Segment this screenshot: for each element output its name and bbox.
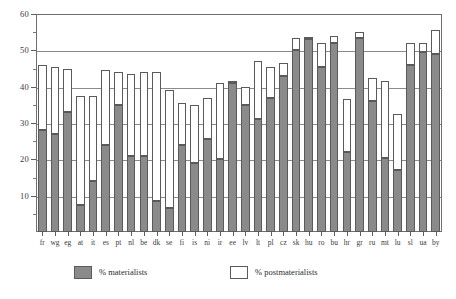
bar-segment-postmaterialists — [431, 30, 440, 54]
bar-segment-postmaterialists — [140, 72, 149, 156]
x-tick — [118, 232, 119, 236]
bar-segment-postmaterialists — [127, 74, 136, 156]
bar-column — [203, 14, 212, 232]
bar-segment-postmaterialists — [419, 43, 428, 52]
bar-column — [63, 14, 72, 232]
x-tick-label: ir — [218, 238, 223, 247]
x-tick-label: by — [432, 238, 440, 247]
x-tick — [68, 232, 69, 236]
bar-segment-materialists — [203, 139, 212, 232]
bar-segment-postmaterialists — [254, 61, 263, 119]
y-tick-label: 60 — [20, 10, 29, 19]
bar-segment-postmaterialists — [279, 63, 288, 76]
x-tick — [334, 232, 335, 236]
x-tick-label: pt — [116, 238, 122, 247]
bar-segment-materialists — [228, 83, 237, 232]
bar-segment-materialists — [101, 145, 110, 232]
bar-segment-postmaterialists — [203, 98, 212, 140]
bar-column — [216, 14, 225, 232]
bar-column — [292, 14, 301, 232]
x-tick — [182, 232, 183, 236]
legend-item-postmaterialists: % postmaterialists — [230, 266, 318, 279]
bar-segment-materialists — [127, 156, 136, 232]
x-tick-label: fi — [180, 238, 185, 247]
bar-segment-materialists — [190, 163, 199, 232]
bar-segment-postmaterialists — [292, 38, 301, 51]
y-tick-label: 10 — [20, 191, 29, 200]
bar-column — [330, 14, 339, 232]
bar-segment-postmaterialists — [38, 65, 47, 130]
x-tick-label: lv — [242, 238, 248, 247]
bar-column — [419, 14, 428, 232]
y-tick-label: 30 — [20, 119, 29, 128]
x-tick-label: ua — [419, 238, 426, 247]
x-tick-label: sl — [408, 238, 413, 247]
x-tick — [258, 232, 259, 236]
x-tick-label: lu — [395, 238, 401, 247]
bar-segment-postmaterialists — [63, 69, 72, 113]
x-tick — [436, 232, 437, 236]
legend-item-materialists: % materialists — [74, 266, 147, 279]
bar-column — [38, 14, 47, 232]
bar-segment-postmaterialists — [165, 90, 174, 208]
bar-column — [140, 14, 149, 232]
bar-segment-materialists — [406, 65, 415, 232]
bar-column — [406, 14, 415, 232]
x-tick-label: it — [91, 238, 95, 247]
bar-column — [317, 14, 326, 232]
bar-segment-materialists — [114, 105, 123, 232]
bar-segment-materialists — [381, 158, 390, 232]
bar-column — [355, 14, 364, 232]
x-tick — [169, 232, 170, 236]
bar-segment-postmaterialists — [317, 43, 326, 67]
bar-segment-materialists — [152, 201, 161, 232]
x-tick-label: hu — [305, 238, 313, 247]
x-tick — [296, 232, 297, 236]
y-tick-label: 20 — [20, 155, 29, 164]
x-tick — [131, 232, 132, 236]
bar-column — [114, 14, 123, 232]
bar-segment-materialists — [355, 38, 364, 232]
bar-segment-postmaterialists — [89, 96, 98, 181]
bar-segment-materialists — [266, 98, 275, 232]
x-tick — [245, 232, 246, 236]
x-tick-label: be — [140, 238, 147, 247]
x-tick-label: dk — [153, 238, 161, 247]
bar-segment-materialists — [216, 159, 225, 232]
legend-label-postmaterialists: % postmaterialists — [255, 268, 318, 277]
bar-segment-materialists — [178, 145, 187, 232]
bar-column — [127, 14, 136, 232]
x-axis-labels: frwgegatitesptnlbedksefiisniireelvltplcz… — [36, 238, 442, 251]
bar-segment-materialists — [140, 156, 149, 232]
x-tick — [80, 232, 81, 236]
bar-segment-materialists — [38, 130, 47, 232]
x-tick — [321, 232, 322, 236]
bar-segment-postmaterialists — [381, 81, 390, 157]
x-tick-label: es — [103, 238, 109, 247]
legend-label-materialists: % materialists — [99, 268, 147, 277]
bar-column — [241, 14, 250, 232]
bar-column — [101, 14, 110, 232]
x-tick — [195, 232, 196, 236]
x-tick-label: fr — [40, 238, 45, 247]
bar-segment-postmaterialists — [216, 83, 225, 159]
bar-segment-materialists — [330, 43, 339, 232]
x-tick-label: mt — [381, 238, 389, 247]
bar-segment-postmaterialists — [178, 103, 187, 145]
bar-segment-postmaterialists — [406, 43, 415, 65]
x-tick — [220, 232, 221, 236]
chart-legend: % materialists % postmaterialists — [36, 266, 442, 288]
x-tick — [55, 232, 56, 236]
bar-segment-postmaterialists — [51, 67, 60, 134]
bar-segment-materialists — [241, 105, 250, 232]
x-tick-label: ni — [204, 238, 210, 247]
bar-segment-materialists — [368, 101, 377, 232]
x-tick — [233, 232, 234, 236]
bar-segment-postmaterialists — [101, 70, 110, 144]
bar-column — [51, 14, 60, 232]
bar-segment-postmaterialists — [190, 105, 199, 163]
bar-segment-postmaterialists — [368, 78, 377, 102]
x-tick-label: se — [166, 238, 172, 247]
bar-column — [381, 14, 390, 232]
bar-segment-materialists — [254, 119, 263, 232]
